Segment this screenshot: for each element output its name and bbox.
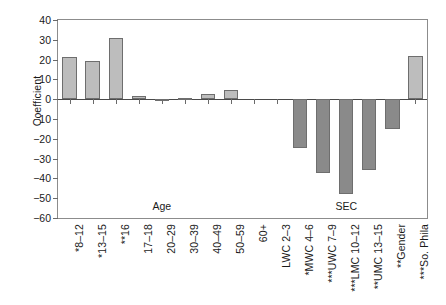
x-axis-category-label: 17–18 [142,224,154,254]
x-axis-category-label: *13–15 [96,224,108,258]
y-axis-tick [53,198,58,199]
y-axis-tick [53,159,58,160]
y-axis-tick-label: 30 [39,34,51,46]
y-axis-tick-label: −20 [33,133,51,145]
x-axis-category-label: *8–12 [73,224,85,252]
x-axis-category-label: **Gender [395,224,407,268]
bar [178,98,192,100]
bar [293,99,307,148]
plot-surface: AgeSEC [58,20,427,218]
x-axis-tick [139,99,140,104]
x-axis-category-label: 30–39 [188,224,200,254]
x-axis-category-label: ***So. Phila [418,224,430,279]
group-label-sec: SEC [335,200,357,212]
bar [362,99,376,170]
y-axis-tick-label: −10 [33,113,51,125]
y-axis-tick [53,218,58,219]
x-axis-tick [93,99,94,104]
x-axis-tick [116,99,117,104]
y-axis-tick [53,119,58,120]
x-axis-category-label: *MWC 4–6 [303,224,315,276]
bar [109,38,123,99]
y-axis-title: Coefficient [31,31,43,171]
bar [408,56,422,100]
y-axis-tick [53,40,58,41]
plot-area: AgeSEC 403020100−10−20−30−40−50−60 [57,19,428,219]
x-axis-category-label: ***UWC 7–9 [326,224,338,283]
y-axis-tick [53,60,58,61]
y-axis-tick-label: −50 [33,192,51,204]
x-axis-category-label: 50–59 [234,224,246,254]
bar [62,57,76,100]
y-axis-tick [53,178,58,179]
chart-figure: Coefficient AgeSEC 403020100−10−20−30−40… [0,0,446,305]
y-axis-tick [53,20,58,21]
y-axis-tick-label: −40 [33,172,51,184]
y-axis-tick-label: 10 [39,73,51,85]
x-axis-tick [231,99,232,104]
y-axis-tick [53,99,58,100]
bar [155,99,169,101]
bar [85,61,99,100]
x-axis-category-label: LWC 2–3 [280,224,292,268]
y-axis-tick-label: 20 [39,54,51,66]
y-axis-tick-label: −60 [33,212,51,224]
x-axis-tick [208,99,209,104]
y-axis-tick [53,139,58,140]
x-axis-category-label: **16 [119,224,131,244]
x-axis-tick [70,99,71,104]
bar [201,94,215,99]
x-axis-tick [254,99,255,104]
x-axis-category-label: **UMC 13–15 [372,224,384,289]
bar [385,99,399,129]
x-axis-category-label: 40–49 [211,224,223,254]
bar [316,99,330,173]
x-axis-tick [185,99,186,104]
x-axis-tick [277,99,278,104]
y-axis-tick-label: −30 [33,153,51,165]
x-axis-category-label: 60+ [257,224,269,242]
x-axis-category-label: 20–29 [165,224,177,254]
bar [132,96,146,99]
y-axis-tick-label: 0 [45,93,51,105]
bar [224,90,238,99]
x-axis-category-label: ***LMC 10–12 [349,224,361,292]
group-label-age: Age [152,200,171,212]
bar [339,99,353,194]
y-axis-tick [53,79,58,80]
y-axis-tick-label: 40 [39,14,51,26]
x-axis-tick [415,99,416,104]
